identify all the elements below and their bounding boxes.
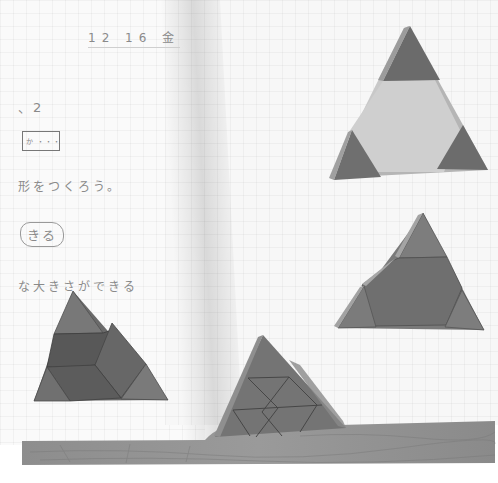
puzzle-pieces-layer xyxy=(0,0,498,483)
puzzle-top-right xyxy=(329,26,488,180)
photo-scene: 12 16 金 、2 か ・・・ 形をつくろう。 きる な大きさができる xyxy=(0,0,498,483)
puzzle-middle-right xyxy=(334,213,484,330)
puzzle-bottom-left xyxy=(34,291,168,401)
puzzle-bottom-center xyxy=(214,335,346,437)
